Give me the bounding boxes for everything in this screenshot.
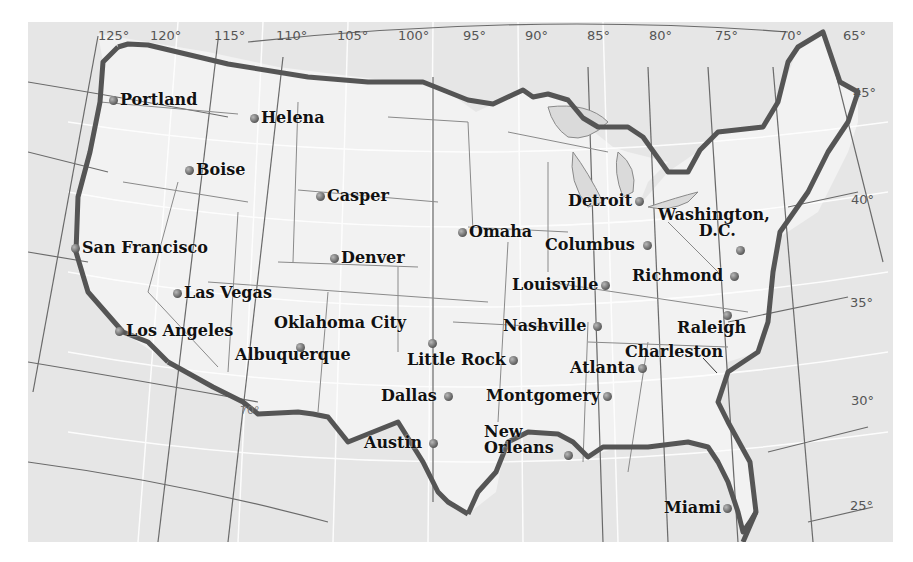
city-miami: Miami <box>664 500 732 516</box>
city-marker-icon <box>643 241 652 250</box>
city-new-orleans: New Orleans <box>484 424 554 456</box>
city-marker-icon <box>316 192 325 201</box>
city-little-rock: Little Rock <box>407 352 518 368</box>
longitude-tick: 125° <box>98 28 129 43</box>
city-las-vegas: Las Vegas <box>173 285 272 301</box>
latitude-tick: 30° <box>851 393 874 408</box>
city-marker-icon <box>603 392 612 401</box>
city-casper: Casper <box>316 188 389 204</box>
city-montgomery: Montgomery <box>486 388 612 404</box>
longitude-tick: 80° <box>649 28 672 43</box>
city-raleigh: Raleigh <box>677 320 746 336</box>
city-oklahoma-city: Oklahoma City <box>274 315 406 331</box>
latitude-tick: 45° <box>853 85 876 100</box>
city-helena: Helena <box>250 110 325 126</box>
longitude-tick: 100° <box>398 28 429 43</box>
city-marker-icon <box>330 254 339 263</box>
city-nashville: Nashville <box>503 318 602 334</box>
city-marker-icon <box>593 322 602 331</box>
longitude-tick: 85° <box>587 28 610 43</box>
city-marker-icon <box>173 289 182 298</box>
city-san-francisco: San Francisco <box>71 240 208 256</box>
city-marker-icon <box>638 364 647 373</box>
city-austin: Austin <box>364 435 438 451</box>
longitude-tick: 110° <box>276 28 307 43</box>
city-dallas: Dallas <box>381 388 453 404</box>
latitude-tick: 35° <box>850 295 873 310</box>
longitude-tick: 75° <box>715 28 738 43</box>
longitude-tick: 65° <box>843 28 866 43</box>
city-denver: Denver <box>330 250 405 266</box>
city-marker-icon <box>458 228 467 237</box>
longitude-tick: 95° <box>463 28 486 43</box>
city-portland: Portland <box>109 92 197 108</box>
longitude-tick: 120° <box>150 28 181 43</box>
city-omaha: Omaha <box>458 224 532 240</box>
charleston-pointer-line <box>700 356 720 376</box>
longitude-tick: 90° <box>525 28 548 43</box>
city-los-angeles: Los Angeles <box>115 323 233 339</box>
longitude-tick: 115° <box>214 28 245 43</box>
city-marker-icon <box>509 356 518 365</box>
city-boise: Boise <box>185 162 245 178</box>
city-marker-icon <box>185 166 194 175</box>
longitude-tick: 105° <box>337 28 368 43</box>
latitude-tick: 40° <box>851 192 874 207</box>
city-albuquerque: Albuquerque <box>235 347 351 363</box>
latitude-tick: 25° <box>850 498 873 513</box>
city-washington-dc: Washington, D.C. <box>658 207 770 239</box>
city-marker-icon <box>115 327 124 336</box>
city-richmond: Richmond <box>632 268 739 284</box>
city-marker-icon <box>71 244 80 253</box>
city-marker-icon <box>723 504 732 513</box>
city-marker-icon <box>601 281 610 290</box>
city-louisville: Louisville <box>512 277 610 293</box>
city-marker-icon <box>730 272 739 281</box>
albuquerque-marker-icon <box>296 343 305 352</box>
inner-tick: 70° <box>240 404 260 417</box>
oklahoma-city-marker-icon <box>428 339 437 348</box>
city-atlanta: Atlanta <box>570 360 647 376</box>
city-marker-icon <box>109 96 118 105</box>
city-marker-icon <box>250 114 259 123</box>
washington-dc-marker-icon <box>736 246 745 255</box>
city-detroit: Detroit <box>568 193 644 209</box>
new-orleans-marker-icon <box>564 451 573 460</box>
longitude-tick: 70° <box>779 28 802 43</box>
city-marker-icon <box>635 197 644 206</box>
city-columbus: Columbus <box>545 237 652 253</box>
city-marker-icon <box>444 392 453 401</box>
city-marker-icon <box>429 439 438 448</box>
